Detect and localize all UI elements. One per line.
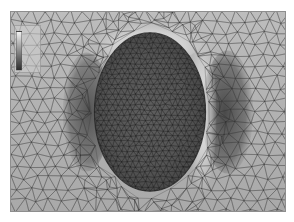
legend-tick-labels — [22, 31, 39, 71]
legend-body — [16, 31, 39, 71]
mesh-svg — [11, 12, 285, 211]
legend-title — [15, 26, 40, 27]
legend-overlay — [14, 25, 41, 73]
mesh-plot-panel — [10, 11, 286, 212]
caption-remnant — [112, 0, 196, 9]
figure-root — [0, 0, 294, 222]
